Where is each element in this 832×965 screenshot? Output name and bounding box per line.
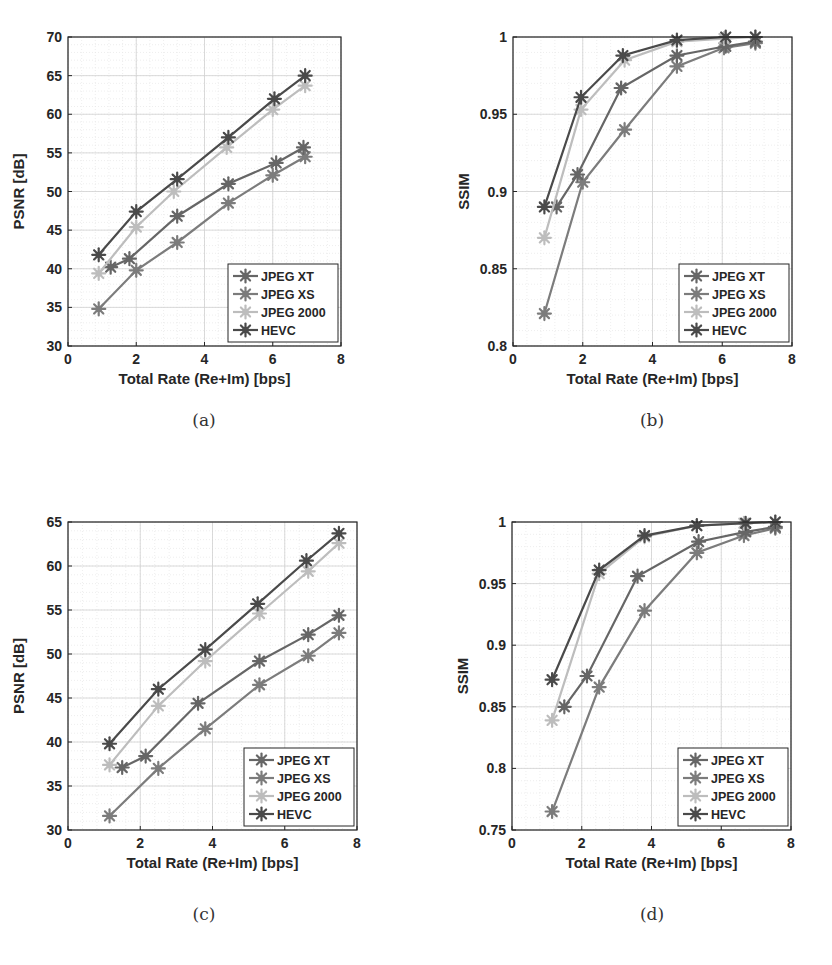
- svg-text:65: 65: [46, 514, 62, 530]
- svg-text:0: 0: [64, 351, 72, 367]
- svg-text:4: 4: [201, 351, 209, 367]
- svg-text:0: 0: [508, 835, 516, 851]
- svg-text:JPEG 2000: JPEG 2000: [261, 306, 326, 320]
- svg-text:65: 65: [46, 68, 62, 84]
- svg-text:HEVC: HEVC: [277, 808, 312, 822]
- svg-text:50: 50: [46, 646, 62, 662]
- svg-text:8: 8: [788, 351, 796, 367]
- svg-text:8: 8: [787, 835, 795, 851]
- svg-text:60: 60: [46, 558, 62, 574]
- chart-d: 024680.750.80.850.90.951Total Rate (Re+I…: [416, 470, 832, 965]
- svg-text:35: 35: [46, 778, 62, 794]
- svg-text:55: 55: [46, 602, 62, 618]
- svg-text:0.9: 0.9: [487, 637, 507, 653]
- svg-text:0: 0: [64, 835, 72, 851]
- svg-text:45: 45: [46, 690, 62, 706]
- svg-text:6: 6: [718, 351, 726, 367]
- svg-text:30: 30: [46, 338, 62, 354]
- svg-text:0.8: 0.8: [487, 760, 507, 776]
- svg-text:JPEG XS: JPEG XS: [261, 288, 315, 302]
- svg-text:0.8: 0.8: [488, 338, 508, 354]
- svg-text:2: 2: [136, 835, 144, 851]
- svg-text:JPEG 2000: JPEG 2000: [277, 790, 342, 804]
- svg-text:60: 60: [46, 106, 62, 122]
- svg-text:0.9: 0.9: [488, 184, 508, 200]
- svg-text:4: 4: [648, 835, 656, 851]
- svg-text:40: 40: [46, 261, 62, 277]
- x-axis-label: Total Rate (Re+Im) [bps]: [566, 854, 738, 871]
- svg-text:0: 0: [509, 351, 517, 367]
- y-axis-label: PSNR [dB]: [10, 154, 27, 230]
- svg-text:1: 1: [498, 514, 506, 530]
- svg-text:HEVC: HEVC: [261, 324, 296, 338]
- svg-text:0.95: 0.95: [480, 106, 507, 122]
- svg-text:0.85: 0.85: [479, 699, 506, 715]
- svg-text:1: 1: [499, 29, 507, 45]
- svg-text:JPEG 2000: JPEG 2000: [711, 790, 776, 804]
- svg-text:JPEG 2000: JPEG 2000: [712, 306, 777, 320]
- chart-b-panel: 024680.80.850.90.951Total Rate (Re+Im) […: [416, 0, 832, 470]
- caption-c: (c): [174, 904, 234, 924]
- legend: JPEG XTJPEG XSJPEG 2000HEVC: [678, 748, 788, 826]
- y-axis-label: SSIM: [454, 658, 471, 695]
- svg-text:HEVC: HEVC: [711, 808, 746, 822]
- chart-c: 024683035404550556065Total Rate (Re+Im) …: [0, 470, 416, 965]
- svg-text:8: 8: [337, 351, 345, 367]
- legend: JPEG XTJPEG XSJPEG 2000HEVC: [244, 748, 354, 826]
- svg-text:45: 45: [46, 222, 62, 238]
- svg-text:6: 6: [717, 835, 725, 851]
- svg-text:JPEG XS: JPEG XS: [712, 288, 766, 302]
- svg-text:HEVC: HEVC: [712, 324, 747, 338]
- svg-text:0.95: 0.95: [479, 576, 506, 592]
- svg-text:JPEG XT: JPEG XT: [277, 754, 330, 768]
- y-axis-label: SSIM: [455, 173, 472, 210]
- svg-text:2: 2: [578, 835, 586, 851]
- chart-a: 02468303540455055606570Total Rate (Re+Im…: [0, 0, 416, 470]
- x-axis-label: Total Rate (Re+Im) [bps]: [127, 854, 299, 871]
- svg-text:JPEG XT: JPEG XT: [711, 754, 764, 768]
- svg-text:40: 40: [46, 734, 62, 750]
- svg-text:8: 8: [353, 835, 361, 851]
- svg-text:0.75: 0.75: [479, 822, 506, 838]
- caption-d: (d): [622, 904, 682, 924]
- svg-text:55: 55: [46, 145, 62, 161]
- legend: JPEG XTJPEG XSJPEG 2000HEVC: [228, 264, 338, 342]
- svg-text:6: 6: [269, 351, 277, 367]
- chart-a-panel: 02468303540455055606570Total Rate (Re+Im…: [0, 0, 416, 470]
- svg-text:35: 35: [46, 299, 62, 315]
- x-axis-label: Total Rate (Re+Im) [bps]: [119, 370, 291, 387]
- svg-text:4: 4: [209, 835, 217, 851]
- svg-text:JPEG XS: JPEG XS: [277, 772, 331, 786]
- chart-c-panel: 024683035404550556065Total Rate (Re+Im) …: [0, 470, 416, 965]
- svg-text:70: 70: [46, 29, 62, 45]
- legend: JPEG XTJPEG XSJPEG 2000HEVC: [679, 264, 789, 342]
- caption-a: (a): [174, 410, 234, 430]
- svg-text:0.85: 0.85: [480, 261, 507, 277]
- svg-text:6: 6: [281, 835, 289, 851]
- chart-d-panel: 024680.750.80.850.90.951Total Rate (Re+I…: [416, 470, 832, 965]
- svg-text:JPEG XS: JPEG XS: [711, 772, 765, 786]
- svg-text:JPEG XT: JPEG XT: [712, 270, 765, 284]
- svg-text:2: 2: [132, 351, 140, 367]
- svg-text:2: 2: [579, 351, 587, 367]
- svg-text:JPEG XT: JPEG XT: [261, 270, 314, 284]
- svg-text:50: 50: [46, 184, 62, 200]
- x-axis-label: Total Rate (Re+Im) [bps]: [567, 370, 739, 387]
- y-axis-label: PSNR [dB]: [10, 638, 27, 714]
- svg-text:30: 30: [46, 822, 62, 838]
- svg-text:4: 4: [649, 351, 657, 367]
- chart-b: 024680.80.850.90.951Total Rate (Re+Im) […: [416, 0, 832, 470]
- caption-b: (b): [622, 410, 682, 430]
